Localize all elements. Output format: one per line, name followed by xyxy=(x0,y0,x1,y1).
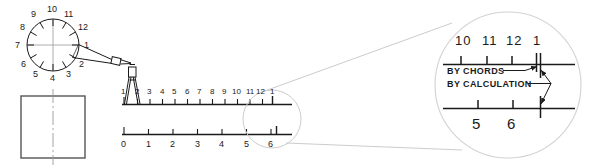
chord-scale-label-5: 5 xyxy=(172,88,176,96)
dial-label-10: 10 xyxy=(47,5,57,14)
calculated-scale-label-5: 5 xyxy=(244,140,249,149)
chord-scale-group xyxy=(122,96,292,105)
calculated-scale-label-3: 3 xyxy=(195,140,200,149)
detail-label-12: 12 xyxy=(506,34,522,47)
annotation-by-chords: BY CHORDS xyxy=(447,67,504,76)
dial-label-5: 5 xyxy=(33,70,38,79)
chord-scale-label-1-end: 1 xyxy=(270,88,274,96)
detail-label-11: 11 xyxy=(482,34,498,47)
plate-outline xyxy=(21,96,85,158)
dial-label-12: 12 xyxy=(78,23,88,32)
dial-label-7: 7 xyxy=(15,41,20,50)
dial-label-6: 6 xyxy=(21,60,26,69)
chord-scale-label-7: 7 xyxy=(197,88,201,96)
chord-scale-label-11: 11 xyxy=(246,88,254,96)
calculated-scale-label-2: 2 xyxy=(170,140,175,149)
calculated-scale-label-6: 6 xyxy=(268,140,273,149)
chord-scale-label-4: 4 xyxy=(160,88,164,96)
detail-label-5: 5 xyxy=(472,116,480,131)
calculated-scale-ticks xyxy=(124,126,277,135)
chord-scale-label-10: 10 xyxy=(232,88,241,96)
detail-label-10: 10 xyxy=(455,34,471,47)
dial-label-9: 9 xyxy=(31,10,36,19)
chord-scale-label-3: 3 xyxy=(147,88,151,96)
leader-by-chords xyxy=(503,67,537,71)
dividers-handle xyxy=(129,67,137,77)
dial-label-11: 11 xyxy=(64,10,73,19)
dial-label-8: 8 xyxy=(20,23,25,32)
chord-scale-label-12: 12 xyxy=(256,88,265,96)
dial-label-3: 3 xyxy=(66,70,71,79)
figure-canvas: 1 2 3 4 5 6 7 8 9 10 11 12 1 2 3 4 5 6 7… xyxy=(0,0,594,166)
calculated-scale-label-0: 0 xyxy=(121,140,126,149)
scale-dividers xyxy=(125,65,141,105)
calculated-scale-label-1: 1 xyxy=(146,140,151,149)
chord-scale-label-1: 1 xyxy=(121,88,125,96)
dial-label-4: 4 xyxy=(50,74,55,83)
annotation-by-calculation: BY CALCULATION xyxy=(447,80,532,89)
chord-scale-label-6: 6 xyxy=(185,88,189,96)
detail-label-6: 6 xyxy=(507,116,515,131)
calculated-scale-group xyxy=(122,126,292,135)
calculated-scale-label-4: 4 xyxy=(219,140,224,149)
plate-group xyxy=(21,89,85,165)
chord-scale-label-9: 9 xyxy=(222,88,226,96)
dial-label-2: 2 xyxy=(79,60,84,69)
detail-label-1: 1 xyxy=(533,34,541,47)
chord-scale-label-2: 2 xyxy=(135,88,139,96)
dial-label-1: 1 xyxy=(84,41,89,50)
chord-scale-label-8: 8 xyxy=(210,88,214,96)
